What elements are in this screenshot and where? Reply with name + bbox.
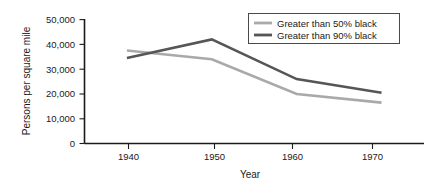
x-axis-ticks xyxy=(129,144,373,150)
y-tick-label-50000: 50,000 xyxy=(46,14,75,25)
chart-canvas: 50,000 40,000 30,000 20,000 10,000 0 Per… xyxy=(0,0,433,185)
line-chart-figure: 50,000 40,000 30,000 20,000 10,000 0 Per… xyxy=(0,0,433,185)
legend-label-greater-than-50-percent: Greater than 50% black xyxy=(277,18,377,29)
x-tick-label-1960: 1960 xyxy=(282,151,303,162)
y-tick-label-30000: 30,000 xyxy=(46,64,75,75)
x-axis-title: Year xyxy=(240,169,261,180)
y-tick-label-0: 0 xyxy=(70,138,75,149)
x-tick-label-1940: 1940 xyxy=(118,151,139,162)
series-line-greater-than-90-percent xyxy=(127,39,382,92)
y-axis-title: Persons per square mile xyxy=(21,26,32,135)
chart-legend: Greater than 50% black Greater than 90% … xyxy=(249,14,400,44)
y-tick-label-40000: 40,000 xyxy=(46,39,75,50)
x-tick-label-1950: 1950 xyxy=(204,151,225,162)
y-tick-label-10000: 10,000 xyxy=(46,113,75,124)
legend-label-greater-than-90-percent: Greater than 90% black xyxy=(277,30,377,41)
x-tick-label-1970: 1970 xyxy=(362,151,383,162)
y-tick-label-20000: 20,000 xyxy=(46,88,75,99)
